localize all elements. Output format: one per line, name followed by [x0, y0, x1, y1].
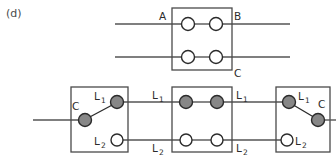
middle-switch-terminal-l1-out[interactable] — [211, 96, 224, 109]
left-switch-label-l1: L 1 — [94, 85, 106, 105]
top-terminal-c-right[interactable] — [210, 51, 223, 64]
left-switch-terminal-c[interactable] — [79, 114, 92, 127]
left-switch-label-c: C — [72, 100, 79, 112]
label-c-top: C — [234, 67, 241, 79]
middle-switch-terminal-l1-in[interactable] — [180, 96, 193, 109]
right-switch-terminal-l2[interactable] — [281, 134, 293, 146]
switch-wiring-diagram: (d) A B C — [0, 0, 336, 156]
middle-switch-group: L 1 L 1 L 2 L 2 — [152, 84, 248, 156]
top-assembly: A B C — [115, 8, 290, 79]
left-switch-label-l2: L 2 — [94, 130, 106, 150]
label-a: A — [159, 10, 167, 22]
left-switch-terminal-l1[interactable] — [111, 96, 124, 109]
top-terminal-b[interactable] — [210, 18, 223, 31]
middle-switch-terminal-l2-in[interactable] — [180, 134, 192, 146]
top-switch-box[interactable] — [172, 8, 232, 70]
middle-switch-label-l1-out: L 1 — [236, 84, 248, 104]
bottom-assembly: C L 1 L 2 L — [33, 84, 336, 156]
label-b: B — [234, 10, 241, 22]
left-switch-group: C L 1 L 2 — [33, 85, 128, 152]
right-switch-group: L 1 C L 2 — [276, 85, 336, 152]
middle-switch-terminal-l2-out[interactable] — [211, 134, 223, 146]
right-switch-label-c: C — [318, 98, 325, 110]
right-switch-label-l2: L 2 — [295, 130, 307, 150]
right-switch-terminal-c[interactable] — [312, 114, 325, 127]
top-terminal-c-left[interactable] — [182, 51, 195, 64]
right-switch-terminal-l1[interactable] — [283, 96, 296, 109]
top-terminal-a[interactable] — [182, 18, 195, 31]
figure-container: (d) A B C — [0, 0, 336, 156]
left-switch-terminal-l2[interactable] — [111, 134, 123, 146]
right-switch-label-l1: L 1 — [298, 85, 310, 105]
middle-switch-label-l1-in: L 1 — [152, 84, 164, 104]
figure-caption: (d) — [6, 7, 22, 20]
